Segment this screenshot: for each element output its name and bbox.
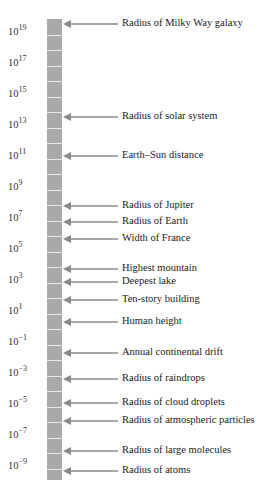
arrow-left-icon	[63, 263, 119, 275]
arrow-left-icon	[63, 276, 119, 288]
tick-label: 1017	[8, 54, 44, 68]
segment-divider	[47, 174, 62, 175]
segment-divider	[47, 453, 62, 454]
segment-divider	[47, 128, 62, 129]
annotation-label: Radius of raindrops	[122, 372, 205, 384]
segment-divider	[47, 329, 62, 330]
tick-label: 101	[8, 302, 44, 316]
annotation-label: Radius of Earth	[122, 215, 188, 227]
segment-divider	[47, 81, 62, 82]
segment-divider	[47, 283, 62, 284]
tick-label: 1013	[8, 116, 44, 130]
segment-divider	[47, 236, 62, 237]
segment-divider	[47, 391, 62, 392]
tick-label: 10−9	[8, 457, 44, 471]
annotation-label: Radius of cloud droplets	[122, 396, 225, 408]
tick-label: 107	[8, 209, 44, 223]
segment-divider	[47, 407, 62, 408]
tick-label: 1011	[8, 147, 44, 161]
arrow-left-icon	[63, 294, 119, 306]
tick-label: 109	[8, 178, 44, 192]
arrow-left-icon	[63, 111, 119, 123]
annotation-label: Radius of Jupiter	[122, 199, 194, 211]
segment-divider	[47, 345, 62, 346]
tick-label: 10−7	[8, 426, 44, 440]
segment-divider	[47, 252, 62, 253]
arrow-left-icon	[63, 415, 119, 427]
tick-label: 10−1	[8, 333, 44, 347]
annotation-label: Deepest lake	[122, 275, 176, 287]
segment-divider	[47, 143, 62, 144]
tick-label: 103	[8, 271, 44, 285]
annotation-label: Radius of atmospheric particles	[122, 414, 255, 426]
tick-label: 1019	[8, 23, 44, 37]
segment-divider	[47, 159, 62, 160]
arrow-left-icon	[63, 216, 119, 228]
arrow-left-icon	[63, 445, 119, 457]
segment-divider	[47, 298, 62, 299]
arrow-left-icon	[63, 200, 119, 212]
segment-divider	[47, 66, 62, 67]
segment-divider	[47, 190, 62, 191]
annotation-label: Ten-story building	[122, 293, 200, 305]
arrow-left-icon	[63, 347, 119, 359]
scale-bar	[47, 19, 62, 480]
arrow-left-icon	[63, 397, 119, 409]
arrow-left-icon	[63, 465, 119, 477]
segment-divider	[47, 469, 62, 470]
arrow-left-icon	[63, 373, 119, 385]
arrow-left-icon	[63, 233, 119, 245]
tick-label: 1015	[8, 85, 44, 99]
segment-divider	[47, 438, 62, 439]
segment-divider	[47, 360, 62, 361]
segment-divider	[47, 112, 62, 113]
arrow-left-icon	[63, 316, 119, 328]
annotation-label: Width of France	[122, 232, 190, 244]
tick-label: 10−3	[8, 364, 44, 378]
annotation-label: Radius of solar system	[122, 110, 217, 122]
arrow-left-icon	[63, 150, 119, 162]
segment-divider	[47, 314, 62, 315]
segment-divider	[47, 35, 62, 36]
annotation-label: Earth–Sun distance	[122, 149, 203, 161]
segment-divider	[47, 221, 62, 222]
segment-divider	[47, 422, 62, 423]
segment-divider	[47, 205, 62, 206]
segment-divider	[47, 376, 62, 377]
annotation-label: Radius of atoms	[122, 464, 190, 476]
annotation-label: Annual continental drift	[122, 346, 223, 358]
annotation-label: Human height	[122, 315, 182, 327]
arrow-left-icon	[63, 18, 119, 30]
annotation-label: Radius of Milky Way galaxy	[122, 17, 243, 29]
annotation-label: Radius of large molecules	[122, 444, 231, 456]
segment-divider	[47, 267, 62, 268]
tick-label: 105	[8, 240, 44, 254]
annotation-label: Highest mountain	[122, 262, 197, 274]
segment-divider	[47, 97, 62, 98]
segment-divider	[47, 50, 62, 51]
tick-label: 10−5	[8, 395, 44, 409]
